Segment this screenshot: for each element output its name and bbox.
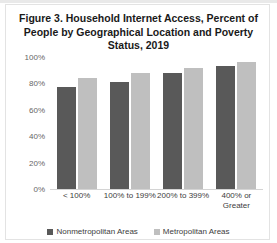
legend-label: Nonmetropolitan Areas: [56, 227, 137, 236]
bar-metropolitan: [184, 68, 203, 189]
bar-metropolitan: [237, 62, 256, 189]
x-axis-label: < 100%: [50, 191, 103, 211]
bar-nonmetropolitan: [57, 87, 76, 189]
legend-item: Nonmetropolitan Areas: [47, 227, 137, 236]
legend-label: Metropolitan Areas: [163, 227, 230, 236]
y-axis-tick: 100%: [25, 53, 45, 62]
plot-wrapper: 0%20%40%60%80%100%: [14, 57, 263, 202]
x-axis-label: 400% or Greater: [210, 191, 263, 211]
legend-swatch-icon: [47, 229, 53, 235]
bar-group: [157, 57, 210, 189]
bar-group: [210, 57, 263, 189]
legend-item: Metropolitan Areas: [154, 227, 230, 236]
scan-artifact: [0, 0, 277, 3]
bar-nonmetropolitan: [163, 73, 182, 189]
chart-title: Figure 3. Household Internet Access, Per…: [18, 12, 259, 53]
figure-container: Figure 3. Household Internet Access, Per…: [0, 0, 277, 243]
y-axis: 0%20%40%60%80%100%: [14, 57, 47, 189]
bar-nonmetropolitan: [216, 66, 235, 189]
bar-nonmetropolitan: [110, 82, 129, 189]
y-axis-tick: 60%: [29, 105, 45, 114]
figure-frame: Figure 3. Household Internet Access, Per…: [5, 4, 270, 240]
y-axis-tick: 0%: [33, 185, 45, 194]
x-axis-label: 200% to 399%: [157, 191, 210, 211]
y-axis-tick: 40%: [29, 132, 45, 141]
x-axis-label: 100% to 199%: [103, 191, 156, 211]
bar-metropolitan: [131, 73, 150, 189]
plot-area: [50, 57, 263, 190]
y-axis-tick: 80%: [29, 79, 45, 88]
chart-legend: Nonmetropolitan AreasMetropolitan Areas: [6, 227, 271, 236]
bar-group: [50, 57, 103, 189]
legend-swatch-icon: [154, 229, 160, 235]
bar-metropolitan: [78, 78, 97, 189]
bar-group: [103, 57, 156, 189]
y-axis-tick: 20%: [29, 158, 45, 167]
x-axis: < 100%100% to 199%200% to 399%400% or Gr…: [50, 191, 263, 211]
